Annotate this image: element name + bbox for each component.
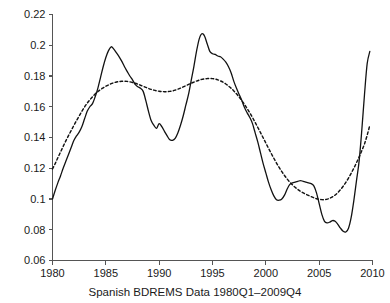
x-tick-label: 1995 bbox=[200, 267, 224, 279]
x-tick-label: 1990 bbox=[147, 267, 171, 279]
x-axis-caption: Spanish BDREMS Data 1980Q1–2009Q4 bbox=[89, 286, 302, 298]
series-group bbox=[53, 34, 370, 233]
y-tick-label: 0.2 bbox=[30, 39, 45, 51]
x-tick-label: 1980 bbox=[40, 267, 64, 279]
y-tick-label: 0.14 bbox=[24, 131, 45, 143]
line-chart-svg: 0.060.080.10.120.140.160.180.20.22198019… bbox=[0, 0, 390, 303]
y-tick-label: 0.1 bbox=[30, 193, 45, 205]
x-tick-label: 1985 bbox=[94, 267, 118, 279]
axis-labels-group: 0.060.080.10.120.140.160.180.20.22198019… bbox=[24, 8, 385, 279]
observed-line-solid bbox=[53, 34, 370, 233]
y-tick-label: 0.18 bbox=[24, 70, 45, 82]
y-tick-label: 0.08 bbox=[24, 224, 45, 236]
y-tick-label: 0.22 bbox=[24, 8, 45, 20]
chart-figure: 0.060.080.10.120.140.160.180.20.22198019… bbox=[0, 0, 390, 303]
x-tick-label: 2010 bbox=[360, 267, 384, 279]
trend-line-dashed bbox=[53, 78, 370, 199]
y-tick-label: 0.06 bbox=[24, 254, 45, 266]
y-tick-label: 0.12 bbox=[24, 162, 45, 174]
y-tick-label: 0.16 bbox=[24, 101, 45, 113]
x-tick-label: 2000 bbox=[254, 267, 278, 279]
x-tick-label: 2005 bbox=[307, 267, 331, 279]
